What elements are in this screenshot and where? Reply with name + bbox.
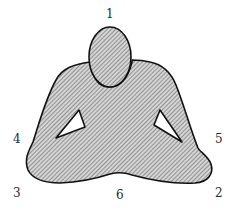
meditation-figure — [0, 0, 236, 209]
label-4: 4 — [13, 133, 21, 145]
label-1: 1 — [106, 8, 114, 20]
head — [89, 27, 131, 87]
label-6: 6 — [116, 189, 124, 201]
label-5: 5 — [215, 133, 223, 145]
label-2: 2 — [215, 187, 223, 199]
label-3: 3 — [13, 187, 21, 199]
